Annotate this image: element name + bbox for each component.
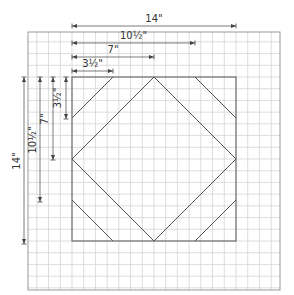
arrow-down-icon xyxy=(64,114,68,119)
arrow-left-icon xyxy=(72,55,77,59)
dimension-label-3-5-horizontal: 3½" xyxy=(82,59,103,69)
dimension-lines xyxy=(22,24,237,245)
arrow-down-icon xyxy=(22,239,26,244)
dimension-label-10-5-vertical: 10½" xyxy=(27,126,37,153)
diagram-canvas xyxy=(0,0,294,295)
arrow-right-icon xyxy=(108,69,113,73)
arrow-left-icon xyxy=(72,24,77,28)
dimension-label-14-horizontal: 14" xyxy=(145,14,162,24)
graph-paper-grid xyxy=(28,32,280,290)
arrow-up-icon xyxy=(51,77,55,82)
dimension-label-10-5-horizontal: 10½" xyxy=(120,31,147,41)
arrow-up-icon xyxy=(64,77,68,82)
arrow-up-icon xyxy=(38,77,42,82)
arrow-up-icon xyxy=(22,77,26,82)
dimension-label-7-vertical: 7" xyxy=(40,113,50,124)
arrow-right-icon xyxy=(231,24,236,28)
arrow-left-icon xyxy=(72,69,77,73)
quilt-block-diagram: 14" 10½" 7" 3½" 14" 10½" 7" 3½" xyxy=(0,0,294,295)
arrow-right-icon xyxy=(149,55,154,59)
arrow-down-icon xyxy=(38,197,42,202)
dimension-label-7-horizontal: 7" xyxy=(108,45,119,55)
dimension-label-14-vertical: 14" xyxy=(11,152,21,169)
dimension-label-3-5-vertical: 3½" xyxy=(53,88,63,109)
